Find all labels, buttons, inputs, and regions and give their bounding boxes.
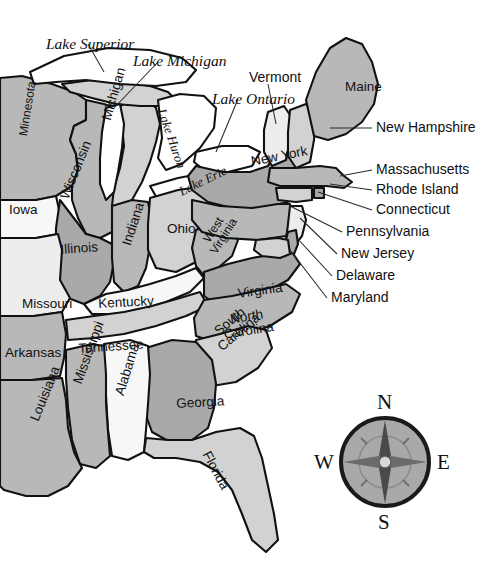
callout-label-massachusetts: Massachusetts — [376, 162, 469, 176]
lake-label-superior: Lake Superior — [46, 36, 134, 52]
callout-label-new-hampshire: New Hampshire — [376, 120, 476, 134]
state-label-arkansas: Arkansas — [5, 346, 61, 360]
compass-rose — [341, 418, 429, 506]
state-shape-connecticut — [276, 188, 312, 202]
state-label-iowa: Iowa — [9, 203, 38, 217]
state-label-maine: Maine — [345, 80, 382, 94]
callout-label-vermont: Vermont — [249, 70, 301, 84]
leader-new-jersey — [300, 218, 337, 254]
state-label-illinois: Illinois — [60, 240, 98, 256]
callout-label-pennsylvania: Pennsylvania — [346, 224, 429, 238]
leader-connecticut — [318, 192, 372, 210]
lake-label-michigan: Lake Michigan — [133, 53, 226, 69]
callout-label-connecticut: Connecticut — [376, 202, 450, 216]
compass-label-north: N — [377, 390, 392, 415]
state-shape-maryland — [254, 238, 290, 258]
state-label-georgia: Georgia — [176, 394, 225, 410]
callout-label-maryland: Maryland — [331, 290, 389, 304]
compass-label-east: E — [437, 450, 450, 475]
state-label-kentucky: Kentucky — [98, 294, 154, 310]
callout-label-delaware: Delaware — [336, 268, 395, 282]
state-shape-florida — [144, 428, 278, 552]
callout-label-rhode-island: Rhode Island — [376, 182, 459, 196]
state-shape-georgia — [142, 340, 216, 442]
state-shape-massachusetts — [268, 166, 352, 188]
state-label-missouri: Missouri — [22, 297, 72, 311]
lake-label-ontario: Lake Ontario — [212, 91, 295, 107]
compass-label-west: W — [314, 450, 334, 475]
state-label-ohio: Ohio — [167, 222, 196, 236]
leader-massachusetts — [340, 170, 372, 176]
map-canvas: Lake Superior Lake Michigan Lake Huron L… — [0, 0, 500, 585]
callout-label-new-jersey: New Jersey — [341, 246, 414, 260]
compass-label-south: S — [378, 510, 390, 535]
